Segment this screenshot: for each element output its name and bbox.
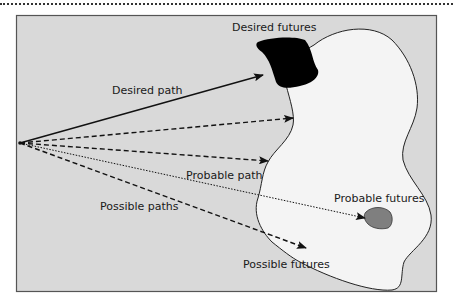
possible-paths-label: Possible paths — [100, 200, 179, 213]
possible-futures-label: Possible futures — [243, 258, 330, 271]
probable-path-label: Probable path — [186, 169, 263, 182]
desired-path-label: Desired path — [112, 84, 183, 97]
futures-diagram: Desired futures Desired path Probable pa… — [0, 0, 453, 308]
desired-futures-label: Desired futures — [232, 21, 317, 34]
probable-futures-label: Probable futures — [334, 192, 425, 205]
